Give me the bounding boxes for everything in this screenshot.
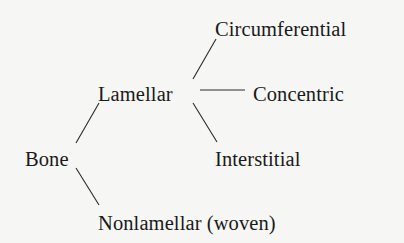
bone-classification-diagram: Circumferential Lamellar Concentric Bone… — [0, 0, 404, 243]
node-lamellar: Lamellar — [98, 84, 173, 105]
edge-bone-lamellar — [76, 103, 99, 143]
node-circumferential: Circumferential — [215, 19, 346, 40]
node-interstitial: Interstitial — [215, 149, 300, 170]
node-bone: Bone — [25, 149, 69, 170]
edge-lamellar-interstitial — [193, 103, 217, 142]
edge-lamellar-circumferential — [193, 39, 216, 79]
edge-bone-nonlamellar — [76, 168, 99, 205]
node-nonlamellar: Nonlamellar (woven) — [98, 213, 276, 234]
node-concentric: Concentric — [253, 84, 344, 105]
